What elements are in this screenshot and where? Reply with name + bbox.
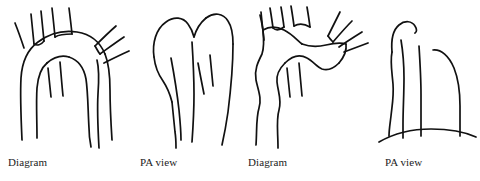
figure-caption-3: Diagram [248, 156, 287, 169]
aortic-arch-diagram-variant-art [240, 0, 375, 150]
figure-caption-1: Diagram [8, 156, 47, 169]
figure-panel-4: PA view [375, 0, 480, 181]
aortic-arch-pa-view-normal-art [135, 0, 240, 150]
figure-caption-2: PA view [140, 156, 177, 169]
figure-caption-4: PA view [385, 156, 422, 169]
aortic-arch-diagram-normal-art [0, 0, 135, 150]
aortic-arch-pa-view-variant-art [375, 0, 480, 150]
figure-panel-3: Diagram [240, 0, 375, 181]
figure-panel-1: Diagram [0, 0, 135, 181]
figure-panel: Diagram [0, 0, 480, 181]
figure-panel-2: PA view [135, 0, 240, 181]
